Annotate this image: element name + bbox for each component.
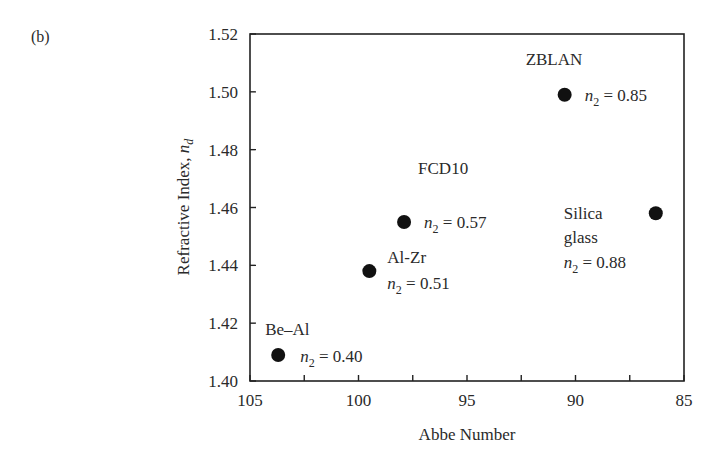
scatter-chart: 1.401.421.441.461.481.501.52 10510095908… (0, 0, 717, 457)
y-tick-label: 1.44 (208, 256, 238, 275)
y-axis-ticks: 1.401.421.441.461.481.501.52 (208, 25, 256, 391)
data-point: ZBLANn2 = 0.85 (526, 50, 647, 109)
x-tick-label: 90 (567, 391, 584, 410)
data-points: Be–Aln2 = 0.40Al-Zrn2 = 0.51FCD10n2 = 0.… (265, 50, 663, 370)
marker-dot (397, 215, 411, 229)
y-tick-label: 1.46 (208, 199, 238, 218)
data-point: Al-Zrn2 = 0.51 (362, 248, 449, 297)
data-point: Be–Aln2 = 0.40 (265, 320, 362, 370)
n2-annotation: n2 = 0.51 (387, 274, 449, 297)
x-tick-label: 100 (346, 391, 372, 410)
y-tick-label: 1.52 (208, 25, 238, 44)
point-name-label: FCD10 (418, 159, 468, 178)
marker-dot (271, 348, 285, 362)
y-tick-label: 1.42 (208, 314, 238, 333)
y-tick-label: 1.48 (208, 141, 238, 160)
point-name-label: ZBLAN (526, 50, 583, 69)
y-tick-label: 1.40 (208, 372, 238, 391)
x-tick-label: 95 (459, 391, 476, 410)
n2-annotation: n2 = 0.85 (585, 86, 647, 109)
marker-dot (649, 206, 663, 220)
point-name-label: Al-Zr (387, 248, 426, 267)
point-name-label: Be–Al (265, 320, 310, 339)
n2-annotation: n2 = 0.40 (300, 347, 362, 370)
x-tick-label: 85 (676, 391, 693, 410)
point-name-label: Silica (564, 204, 603, 223)
n2-annotation: n2 = 0.57 (424, 213, 487, 236)
data-point: Silicaglassn2 = 0.88 (564, 204, 663, 276)
y-axis-label: Refractive Index, nd (174, 138, 196, 276)
point-name-label: glass (564, 228, 598, 247)
x-tick-label: 105 (237, 391, 263, 410)
x-axis-label: Abbe Number (419, 425, 516, 444)
y-tick-label: 1.50 (208, 83, 238, 102)
marker-dot (362, 264, 376, 278)
data-point: FCD10n2 = 0.57 (397, 159, 487, 236)
marker-dot (558, 88, 572, 102)
n2-annotation: n2 = 0.88 (564, 253, 626, 276)
